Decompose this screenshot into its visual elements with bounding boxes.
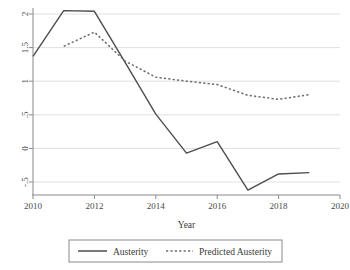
series-line-predicted-austerity [64, 32, 310, 99]
data-series [33, 11, 309, 190]
austerity-line-chart: -.50.511.52 201020122014201620182020 Yea… [0, 0, 350, 270]
y-tick-labels: -.50.511.52 [20, 12, 30, 187]
x-tick-labels: 201020122014201620182020 [24, 201, 350, 211]
y-tick-label: 1 [20, 79, 30, 84]
y-tick-label: 2 [20, 12, 30, 17]
y-axis [29, 8, 33, 195]
x-tick-label: 2014 [147, 201, 166, 211]
legend-label-predicted-austerity: Predicted Austerity [199, 247, 272, 257]
x-tick-label: 2020 [331, 201, 350, 211]
series-line-austerity [33, 11, 309, 190]
x-tick-label: 2010 [24, 201, 43, 211]
y-tick-label: -.5 [20, 177, 30, 187]
y-tick-label: 1.5 [20, 41, 30, 53]
x-tick-label: 2012 [85, 201, 103, 211]
x-tick-label: 2018 [270, 201, 289, 211]
x-axis-title: Year [178, 220, 196, 230]
chart-figure: -.50.511.52 201020122014201620182020 Yea… [0, 0, 350, 270]
legend-label-austerity: Austerity [113, 247, 149, 257]
x-axis-title-text: Year [178, 220, 196, 230]
x-axis [32, 195, 340, 199]
x-tick-label: 2016 [208, 201, 227, 211]
gridlines [33, 14, 340, 182]
legend: AusterityPredicted Austerity [69, 240, 282, 262]
y-tick-label: 0 [20, 146, 30, 151]
y-tick-label: .5 [20, 111, 30, 118]
